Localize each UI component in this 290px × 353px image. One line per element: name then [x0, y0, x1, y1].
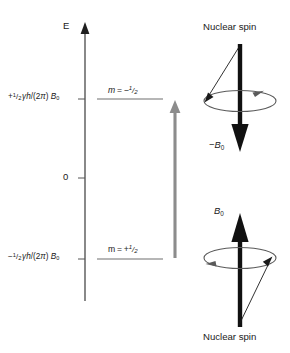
axis-label-zero: 0	[63, 172, 68, 182]
field-subscript-parallel: 0	[220, 210, 224, 217]
axis-label-energy: E	[63, 21, 69, 31]
energy-twopi-upper: /(2	[31, 92, 41, 101]
caption-nuclear-spin-top: Nuclear spin	[203, 22, 256, 32]
field-subscript-antiparallel: 0	[221, 144, 225, 151]
nuclear-spin-pointer-head-bottom	[263, 257, 273, 267]
energy-twopi-lower: /(2	[31, 252, 41, 261]
nuclear-spin-pointer-bottom	[239, 264, 269, 325]
energy-axis-arrowhead	[81, 22, 90, 34]
caption-nuclear-spin-bottom: Nuclear spin	[203, 332, 256, 342]
spin-arrow-head-down	[231, 124, 248, 152]
state-half-fraction-lower: 1/2	[129, 244, 138, 254]
energy-value-label-upper: +1/2 γh/(2π) B0	[8, 93, 59, 102]
state-half-fraction-upper: 1/2	[129, 85, 138, 95]
spin-diagram-antiparallel	[204, 44, 276, 152]
energy-half-fraction-lower: 1/2	[13, 253, 22, 262]
transition-arrow-head	[170, 100, 181, 113]
transition-arrow	[170, 100, 181, 258]
energy-half-fraction-upper: 1/2	[13, 93, 22, 102]
energy-field-upper: B0	[51, 92, 60, 101]
nuclear-spin-pointer-top	[209, 47, 240, 96]
energy-value-label-lower: −1/2 γh/(2π) B0	[8, 253, 59, 262]
spin-arrow-head-up	[231, 213, 248, 242]
axis-ticks	[78, 99, 85, 259]
nuclear-spin-energy-diagram: E 0 +1/2 γh/(2π) B0 −1/2 γh/(2π) B0 m = …	[0, 0, 290, 353]
state-label-upper: m = −1/2	[108, 85, 138, 95]
energy-field-lower: B0	[51, 252, 60, 261]
field-label-antiparallel: −B0	[209, 140, 224, 151]
field-label-parallel: B0	[214, 206, 224, 217]
spin-diagram-parallel	[204, 213, 276, 327]
energy-levels	[97, 99, 163, 259]
diagram-canvas	[0, 0, 290, 353]
state-label-lower: m = +1/2	[108, 244, 138, 254]
